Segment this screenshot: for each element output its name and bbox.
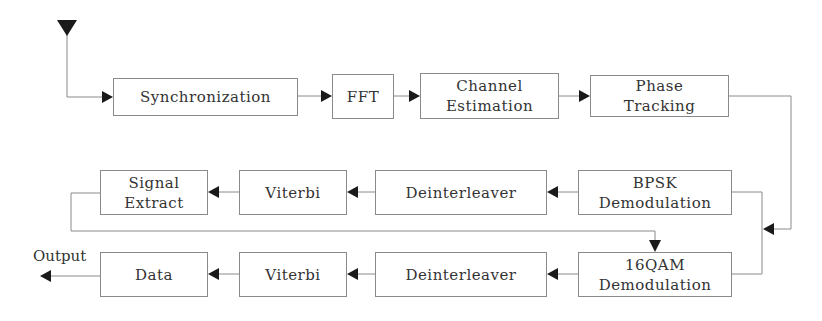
block-label-line2: Demodulation [599, 193, 712, 213]
block-label-line1: Signal [128, 173, 179, 193]
antenna-triangle-icon [57, 20, 77, 36]
block-data: Data [100, 252, 208, 297]
arrow-left-icon [40, 270, 51, 282]
block-deinterleaver-top: Deinterleaver [375, 170, 547, 215]
block-label-line1: Phase [636, 76, 684, 96]
connector-demod-bus [732, 192, 762, 274]
arrow-left-icon [347, 186, 358, 198]
ofdm-receiver-block-diagram: Synchronization FFT Channel Estimation P… [0, 0, 822, 321]
block-synchronization: Synchronization [113, 78, 298, 116]
block-label: Deinterleaver [405, 265, 516, 285]
block-label-line2: Extract [124, 193, 183, 213]
block-viterbi-bottom: Viterbi [239, 252, 347, 297]
connector-phase-bus [729, 96, 791, 229]
arrow-right-icon [321, 90, 332, 102]
block-label-line1: 16QAM [625, 255, 685, 275]
block-deinterleaver-bottom: Deinterleaver [375, 252, 547, 297]
arrow-left-icon [347, 268, 358, 280]
block-viterbi-top: Viterbi [239, 170, 347, 215]
block-channel-estimation: Channel Estimation [420, 73, 559, 119]
block-bpsk-demodulation: BPSK Demodulation [578, 170, 732, 215]
block-label: Deinterleaver [405, 183, 516, 203]
arrow-down-icon [649, 240, 661, 252]
arrow-left-icon [763, 223, 774, 235]
block-label: Viterbi [265, 183, 320, 203]
arrow-right-icon [409, 90, 420, 102]
block-phase-tracking: Phase Tracking [590, 75, 729, 117]
arrow-left-icon [547, 268, 558, 280]
block-signal-extract: Signal Extract [100, 170, 208, 215]
block-16qam-demodulation: 16QAM Demodulation [578, 252, 732, 297]
connector-input-sync [67, 30, 104, 97]
block-label: Data [135, 265, 173, 285]
arrow-left-icon [208, 186, 219, 198]
arrow-left-icon [547, 186, 558, 198]
block-label: FFT [347, 87, 379, 107]
arrow-right-icon [579, 90, 590, 102]
block-label-line2: Tracking [624, 96, 696, 116]
block-fft: FFT [332, 74, 394, 119]
block-label-line2: Demodulation [599, 275, 712, 295]
block-label: Synchronization [140, 87, 271, 107]
output-label: Output [33, 247, 86, 265]
block-label: Viterbi [265, 265, 320, 285]
block-label-line2: Estimation [446, 96, 533, 116]
block-label-line1: Channel [456, 76, 523, 96]
arrow-right-icon [102, 91, 113, 103]
arrow-left-icon [208, 268, 219, 280]
block-label-line1: BPSK [633, 173, 678, 193]
